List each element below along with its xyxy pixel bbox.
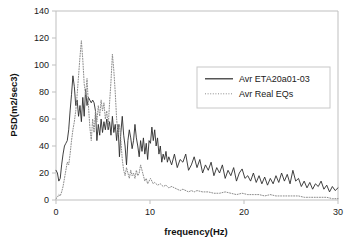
y-tick-label: 40	[39, 141, 49, 151]
y-tick-label: 120	[34, 33, 49, 43]
y-tick-label: 80	[39, 87, 49, 97]
x-tick-label: 10	[145, 207, 155, 217]
x-axis-title: frequency(Hz)	[164, 226, 227, 237]
y-tick-label: 20	[39, 168, 49, 178]
y-tick-label: 0	[44, 195, 49, 205]
chart-legend: Avr ETA20a01-03Avr Real EQs	[197, 67, 330, 108]
legend-label-2: Avr Real EQs	[239, 89, 294, 99]
psd-spectrum-chart: 020406080100120140 0102030 Avr ETA20a01-…	[0, 0, 358, 245]
y-tick-label: 140	[34, 6, 49, 16]
x-tick-label: 0	[53, 207, 58, 217]
x-tick-label: 30	[333, 207, 343, 217]
y-axis-title: PSD(m2/sec3)	[8, 73, 19, 136]
legend-label-1: Avr ETA20a01-03	[239, 74, 310, 84]
y-tick-label: 100	[34, 60, 49, 70]
chart-figure: 020406080100120140 0102030 Avr ETA20a01-…	[0, 0, 358, 245]
x-tick-label: 20	[239, 207, 249, 217]
y-tick-label: 60	[39, 114, 49, 124]
